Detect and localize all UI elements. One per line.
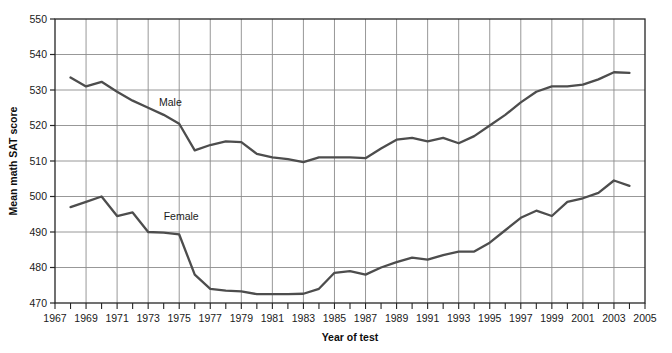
y-axis-tick-label: 480 [29,261,47,273]
y-axis-tick-label: 500 [29,190,47,202]
y-axis-ticks [50,19,55,303]
x-axis-tick-label: 2001 [571,312,595,324]
x-axis-tick-label: 1967 [43,312,67,324]
x-axis-tick-label: 1999 [540,312,564,324]
y-axis-tick-label: 520 [29,119,47,131]
x-axis-tick-label: 1975 [168,312,192,324]
x-axis-tick-label: 1979 [230,312,254,324]
chart-svg: 470480490500510520530540550 196719691971… [0,0,672,353]
y-axis-tick-label: 470 [29,297,47,309]
x-axis-tick-label: 1983 [292,312,316,324]
series-label-female: Female [164,210,199,222]
x-axis-tick-label: 1991 [416,312,440,324]
x-axis-tick-label: 1977 [199,312,223,324]
x-axis-tick-label: 1989 [385,312,409,324]
y-axis-tick-labels: 470480490500510520530540550 [29,13,47,309]
y-axis-tick-label: 540 [29,48,47,60]
sat-score-line-chart: 470480490500510520530540550 196719691971… [0,0,672,353]
x-axis-tick-label: 1969 [74,312,98,324]
x-axis-tick-labels: 1967196919711973197519771979198119831985… [43,312,657,324]
series-label-male: Male [159,96,182,108]
x-axis-tick-label: 1995 [478,312,502,324]
x-axis-title: Year of test [322,331,379,343]
x-axis-tick-label: 1985 [323,312,347,324]
x-axis-tick-label: 1997 [509,312,533,324]
y-axis-tick-label: 490 [29,226,47,238]
x-axis-tick-label: 2005 [633,312,657,324]
x-axis-tick-label: 1971 [105,312,129,324]
y-axis-tick-label: 530 [29,84,47,96]
x-axis-tick-label: 1981 [261,312,285,324]
y-axis-tick-label: 510 [29,155,47,167]
x-axis-tick-label: 2003 [602,312,626,324]
x-axis-ticks [55,303,645,309]
x-axis-tick-label: 1973 [136,312,160,324]
series-line-male [71,72,630,162]
y-axis-title: Mean math SAT score [7,106,19,215]
x-axis-tick-label: 1987 [354,312,378,324]
x-axis-tick-label: 1993 [447,312,471,324]
y-axis-tick-label: 550 [29,13,47,25]
series-lines [71,72,630,294]
series-line-female [71,181,630,295]
